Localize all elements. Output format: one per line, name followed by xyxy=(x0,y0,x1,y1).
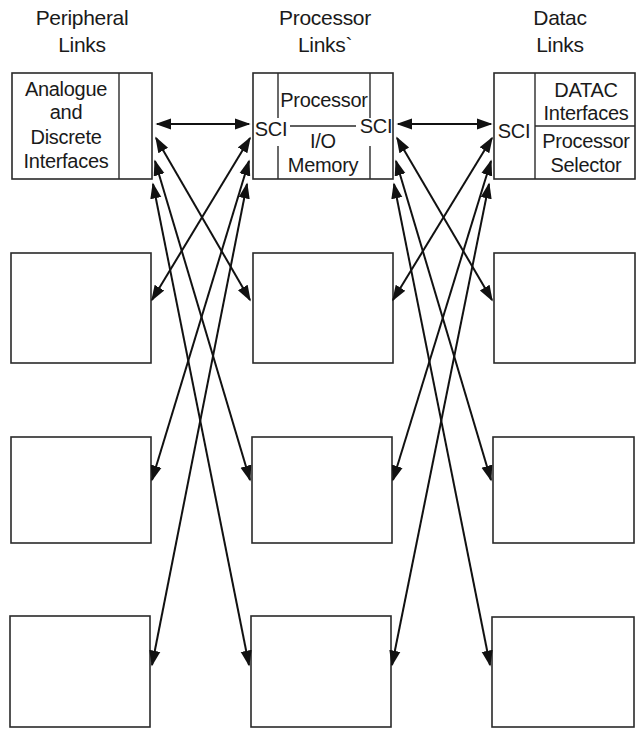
peripheral-row3-box xyxy=(11,437,151,543)
arrows-peripheral-processor xyxy=(152,124,250,665)
datac-box: SCI DATAC Interfaces Processor Selector xyxy=(494,73,635,179)
processor-box: SCI SCI Processor I/O Memory xyxy=(253,73,393,179)
peripheral-row2-box xyxy=(11,253,151,363)
datac-row3-box xyxy=(493,437,634,543)
processor-row2-box xyxy=(253,253,393,363)
arrow-peripheral-to-processor-row4 xyxy=(153,184,249,665)
processor-left-sci: SCI xyxy=(255,118,287,140)
peripheral-box-line1: Analogue xyxy=(25,78,107,100)
datac-row4-box xyxy=(492,617,634,727)
processor-box-memory: Memory xyxy=(288,154,359,176)
datac-box-line4: Selector xyxy=(551,154,623,176)
processor-row4-box xyxy=(251,616,391,727)
arrow-processor-to-datac-row4 xyxy=(394,184,490,665)
datac-box-line3: Processor xyxy=(542,130,630,152)
processor-box-io: I/O xyxy=(310,130,336,152)
arrow-processor-to-peripheral-row3 xyxy=(152,161,249,480)
peripheral-box-line4: Interfaces xyxy=(24,150,109,172)
arrows-processor-datac xyxy=(392,124,492,665)
peripheral-row4-box xyxy=(10,616,150,727)
datac-sci: SCI xyxy=(498,120,530,142)
peripheral-box-line3: Discrete xyxy=(31,126,102,148)
processor-box-processor: Processor xyxy=(280,89,368,111)
processor-right-sci: SCI xyxy=(360,115,392,137)
datac-box-line2: Interfaces xyxy=(544,102,629,124)
peripheral-interfaces-box: Analogue and Discrete Interfaces xyxy=(12,73,152,179)
processor-row3-box xyxy=(252,437,392,543)
datac-box-line1: DATAC xyxy=(554,79,617,101)
datac-row2-box xyxy=(494,253,635,363)
peripheral-box-line2: and xyxy=(50,101,82,123)
architecture-diagram: Analogue and Discrete Interfaces SCI SCI… xyxy=(0,0,640,744)
